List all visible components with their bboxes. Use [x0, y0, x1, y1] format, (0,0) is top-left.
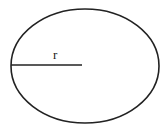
radius-label: r [53, 47, 58, 62]
ellipse-outline [11, 9, 159, 123]
ellipse-diagram: r [0, 0, 166, 128]
